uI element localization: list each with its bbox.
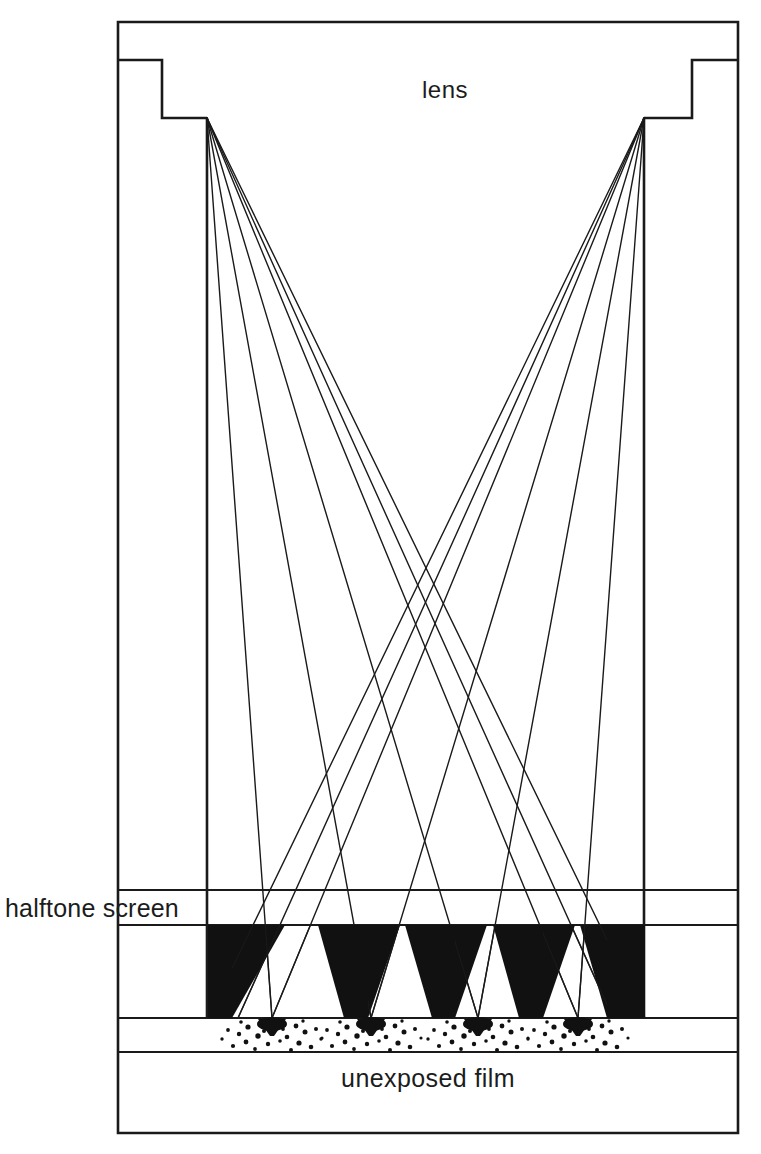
- unexposed-film-label: unexposed film: [341, 1064, 515, 1092]
- halftone-screen-label: halftone screen: [5, 894, 179, 922]
- lens-label: lens: [422, 76, 468, 103]
- halftone-diagram-root: lens halftone screen unexposed film: [0, 0, 761, 1154]
- diagram-canvas: lens halftone screen unexposed film: [0, 0, 761, 1154]
